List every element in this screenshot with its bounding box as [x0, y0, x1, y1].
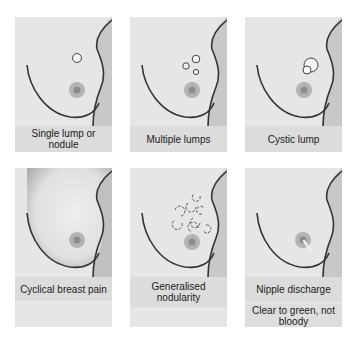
- nodularity-icon: [172, 194, 211, 233]
- caption: Single lump or nodule: [15, 126, 112, 152]
- panel-cyclical-breast-pain: Cyclical breast pain: [15, 168, 112, 327]
- caption-text: Multiple lumps: [143, 134, 215, 145]
- caption-text: Generalised nodularity: [130, 281, 227, 303]
- breast-illustration: [15, 168, 112, 277]
- subcaption: Clear to green, not bloody: [245, 304, 342, 327]
- lump-icon: [183, 63, 189, 69]
- lump-icon: [73, 54, 82, 63]
- caption-text: Nipple discharge: [252, 284, 335, 295]
- lump-icon: [192, 55, 200, 63]
- caption-text: Cystic lump: [264, 134, 324, 145]
- breast-illustration: [15, 17, 112, 126]
- caption-text: Single lump or nodule: [15, 128, 112, 150]
- lump-icon: [193, 69, 198, 74]
- subcaption-text: Clear to green, not bloody: [245, 305, 342, 327]
- caption: Cyclical breast pain: [15, 277, 112, 301]
- caption: Multiple lumps: [130, 126, 227, 152]
- caption: Generalised nodularity: [130, 277, 227, 307]
- caption: Cystic lump: [245, 126, 342, 152]
- panel-multiple-lumps: Multiple lumps: [130, 17, 227, 152]
- breast-illustration: [245, 168, 342, 277]
- breast-illustration: [130, 17, 227, 126]
- breast-illustration: [245, 17, 342, 126]
- panel-single-lump: Single lump or nodule: [15, 17, 112, 152]
- panel-nipple-discharge: Nipple discharge Clear to green, not blo…: [245, 168, 342, 327]
- caption-text: Cyclical breast pain: [16, 284, 111, 295]
- breast-illustration: [130, 168, 227, 277]
- panel-cystic-lump: Cystic lump: [245, 17, 342, 152]
- caption: Nipple discharge: [245, 277, 342, 302]
- panel-generalised-nodularity: Generalised nodularity: [130, 168, 227, 327]
